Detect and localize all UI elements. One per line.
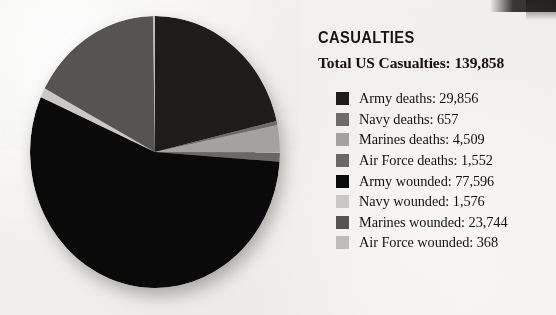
pie-slices-svg (30, 16, 280, 288)
legend-color-swatch (336, 92, 349, 105)
legend-item-label: Marines wounded: 23,744 (359, 214, 508, 231)
legend-color-swatch (336, 236, 349, 249)
pie-disc (30, 16, 280, 288)
legend-item-label: Air Force wounded: 368 (359, 234, 498, 251)
legend-color-swatch (336, 113, 349, 126)
legend-item-label: Navy wounded: 1,576 (359, 193, 485, 210)
top-right-dark-band-fade (526, 0, 556, 20)
legend-color-swatch (336, 154, 349, 167)
legend-item-label: Army deaths: 29,856 (359, 90, 478, 107)
legend-item-label: Navy deaths: 657 (359, 111, 458, 128)
legend: Army deaths: 29,856Navy deaths: 657Marin… (318, 89, 550, 254)
legend-item: Army deaths: 29,856 (336, 89, 550, 110)
page-title: CASUALTIES (318, 30, 531, 46)
legend-item-label: Marines deaths: 4,509 (359, 131, 485, 148)
legend-item: Navy wounded: 1,576 (336, 191, 550, 212)
legend-item: Navy deaths: 657 (336, 109, 550, 130)
total-casualties-label: Total US Casualties: 139,858 (318, 55, 550, 71)
info-panel: CASUALTIES Total US Casualties: 139,858 … (318, 30, 550, 253)
legend-item: Army wounded: 77,596 (336, 171, 550, 192)
legend-item: Air Force deaths: 1,552 (336, 150, 550, 171)
legend-color-swatch (336, 195, 349, 208)
legend-item: Marines wounded: 23,744 (336, 212, 550, 233)
legend-color-swatch (336, 175, 349, 188)
pie-chart (27, 13, 289, 301)
legend-item-label: Air Force deaths: 1,552 (359, 152, 493, 169)
legend-item-label: Army wounded: 77,596 (359, 173, 494, 190)
legend-item: Air Force wounded: 368 (336, 233, 550, 254)
chart-page: CASUALTIES Total US Casualties: 139,858 … (0, 0, 556, 315)
legend-color-swatch (336, 216, 349, 229)
legend-item: Marines deaths: 4,509 (336, 130, 550, 151)
legend-color-swatch (336, 133, 349, 146)
